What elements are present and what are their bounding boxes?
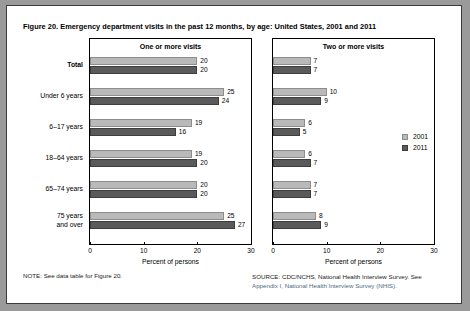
x-tick-mark [327,242,328,245]
bar-value-label: 24 [222,97,229,105]
x-tick-label: 30 [241,247,261,254]
x-axis-line [272,244,435,245]
bar-2011 [273,221,321,229]
bar-value-label: 20 [200,66,207,74]
bar-group: 77 [272,181,435,198]
bar-value-label: 19 [195,150,202,158]
legend-item-2011: 2011 [402,144,428,151]
category-label: 6–17 years [13,123,83,131]
plot-area-left: 2020252419161920202025270102030Percent o… [89,53,252,245]
figure-source: SOURCE: CDC/NCHS, National Health Interv… [252,272,457,290]
bar-2011 [90,128,176,136]
category-label: 18–64 years [13,154,83,162]
bar-value-label: 20 [200,181,207,189]
bar-group: 2527 [89,212,252,229]
x-tick-mark [251,242,252,245]
figure-note: NOTE: See data table for Figure 20. [23,272,122,279]
legend-swatch [402,134,408,140]
source-line-1: SOURCE: CDC/NCHS, National Health Interv… [252,272,457,281]
panel-header-two-or-more: Two or more visits [272,38,435,53]
bar-value-label: 9 [324,221,328,229]
bar-group: 2020 [89,57,252,74]
bar-value-label: 6 [308,150,312,158]
bar-group: 109 [272,88,435,105]
bar-2011 [273,159,311,167]
bar-value-label: 20 [200,190,207,198]
bar-value-label: 27 [238,221,245,229]
bar-value-label: 25 [227,212,234,220]
bar-2001 [273,119,305,127]
x-tick-mark [380,242,381,245]
bar-value-label: 9 [324,97,328,105]
figure-page: Figure 20. Emergency department visits i… [6,5,462,304]
x-tick-label: 10 [134,247,154,254]
x-tick-mark [90,242,91,245]
bar-value-label: 7 [314,66,318,74]
bar-2001 [90,57,197,65]
legend-swatch [402,145,408,151]
bar-group: 77 [272,57,435,74]
bar-2001 [90,88,224,96]
bar-value-label: 8 [319,212,323,220]
bar-value-label: 19 [195,119,202,127]
x-tick-label: 0 [80,247,100,254]
x-tick-label: 20 [370,247,390,254]
bar-2001 [273,57,311,65]
x-axis-title: Percent of persons [272,258,435,265]
category-label: 65–74 years [13,185,83,193]
bar-value-label: 7 [314,57,318,65]
x-axis-line [89,244,252,245]
bar-2011 [273,97,321,105]
bar-value-label: 5 [303,128,307,136]
bar-2001 [90,119,192,127]
bar-2001 [273,88,327,96]
bar-2001 [273,150,305,158]
bar-value-label: 10 [330,88,337,96]
legend-label: 2001 [413,133,428,140]
bar-value-label: 6 [308,119,312,127]
panel-header-label: One or more visits [140,43,201,50]
bar-group: 1916 [89,119,252,136]
x-axis-title: Percent of persons [89,258,252,265]
bar-2011 [90,190,197,198]
category-label: Total [13,61,83,69]
bar-value-label: 20 [200,57,207,65]
x-tick-label: 30 [424,247,444,254]
category-label: 75 years and over [13,212,83,228]
x-tick-label: 20 [187,247,207,254]
bar-value-label: 7 [314,181,318,189]
x-tick-mark [197,242,198,245]
bar-2011 [273,66,311,74]
x-tick-label: 0 [263,247,283,254]
x-tick-mark [434,242,435,245]
bar-2011 [273,190,311,198]
bar-2001 [90,181,197,189]
bar-2001 [90,150,192,158]
bar-2001 [273,212,316,220]
bar-2011 [90,97,219,105]
legend-item-2001: 2001 [402,133,428,140]
panel-header-label: Two or more visits [323,43,384,50]
bar-value-label: 7 [314,190,318,198]
x-tick-mark [273,242,274,245]
bar-2011 [90,66,197,74]
bar-group: 2524 [89,88,252,105]
x-tick-mark [144,242,145,245]
bar-value-label: 7 [314,159,318,167]
bar-group: 89 [272,212,435,229]
bar-2011 [90,221,235,229]
figure-title: Figure 20. Emergency department visits i… [23,22,376,31]
legend-label: 2011 [413,144,428,151]
bar-2001 [273,181,311,189]
bar-value-label: 16 [179,128,186,136]
x-tick-label: 10 [317,247,337,254]
bar-2001 [90,212,224,220]
source-line-2: Appendix I, National Health Interview Su… [252,281,457,290]
bar-2011 [90,159,197,167]
bar-group: 1920 [89,150,252,167]
category-label: Under 6 years [13,92,83,100]
bar-value-label: 25 [227,88,234,96]
panel-header-one-or-more: One or more visits [89,38,252,53]
bar-2011 [273,128,300,136]
legend: 20012011 [402,133,428,155]
